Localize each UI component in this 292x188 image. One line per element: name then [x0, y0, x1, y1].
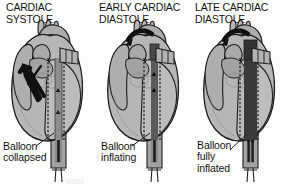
iabp-cardiac-cycle-figure: CARDIAC SYSTOLE: [0, 0, 292, 188]
panel-late-cardiac-diastole: LATE CARDIAC DIASTOLE: [192, 0, 292, 188]
balloon-fully-inflated: [244, 58, 257, 140]
balloon-collapsed: [55, 58, 62, 140]
panel-caption: Balloon fully inflated: [197, 140, 231, 174]
panel-caption: Balloon collapsed: [3, 141, 46, 164]
scan-artifact: [66, 179, 84, 184]
panel-early-cardiac-diastole: EARLY CARDIAC DIASTOLE: [96, 0, 192, 188]
balloon-inflating: [151, 58, 158, 140]
panel-cardiac-systole: CARDIAC SYSTOLE: [0, 0, 96, 188]
panel-caption: Balloon inflating: [101, 141, 136, 164]
